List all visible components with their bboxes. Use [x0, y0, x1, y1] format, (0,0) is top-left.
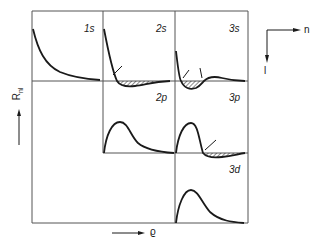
panel-1s-curve [33, 29, 100, 80]
radial-wavefunction-diagram: 1s 2s 3s 2p 3p 3d Rnl ϱ n l [0, 0, 315, 247]
panel-label-3s: 3s [229, 24, 240, 34]
panel-3p-curve [176, 123, 245, 158]
orientation-axes-icon [265, 28, 301, 63]
node-arrow-icon [205, 140, 216, 150]
diagram-canvas [0, 0, 315, 247]
panel-3s-curve [176, 51, 245, 89]
panel-2s-curve [104, 29, 170, 86]
panel-label-3d: 3d [229, 165, 240, 175]
x-axis-label: ϱ [150, 227, 156, 237]
orientation-label-n: n [304, 25, 310, 35]
node-arrow-icon [113, 66, 122, 75]
x-axis-arrow-icon [112, 231, 145, 235]
orientation-label-l: l [264, 66, 266, 76]
panel-2p-curve [104, 122, 174, 153]
y-axis-arrow-icon [17, 109, 21, 145]
y-axis-label: Rnl [12, 88, 24, 101]
panel-3d-curve [176, 190, 244, 223]
panel-label-3p: 3p [229, 93, 240, 103]
panel-label-2p: 2p [156, 93, 167, 103]
panel-label-1s: 1s [84, 24, 95, 34]
panel-label-2s: 2s [156, 24, 167, 34]
node-arrow-icon [183, 70, 189, 78]
node-arrow-icon [200, 68, 202, 78]
grid-frame [32, 11, 248, 223]
